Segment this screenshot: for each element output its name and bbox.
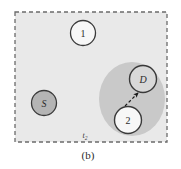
figure-caption: (b) [82, 149, 95, 162]
node-2-label: 2 [126, 115, 131, 126]
node-2[interactable]: 2 [115, 107, 142, 134]
time-label-subscript: 2 [85, 135, 88, 141]
node-1-label: 1 [81, 28, 86, 39]
node-source-label: S [42, 98, 47, 109]
node-1[interactable]: 1 [71, 21, 96, 46]
node-destination-label: D [138, 74, 147, 85]
figure-container: 1 S D 2 t2 (b) [0, 0, 181, 169]
node-source[interactable]: S [32, 91, 57, 116]
figure-canvas: 1 S D 2 t2 (b) [0, 0, 181, 169]
node-destination[interactable]: D [130, 66, 157, 93]
